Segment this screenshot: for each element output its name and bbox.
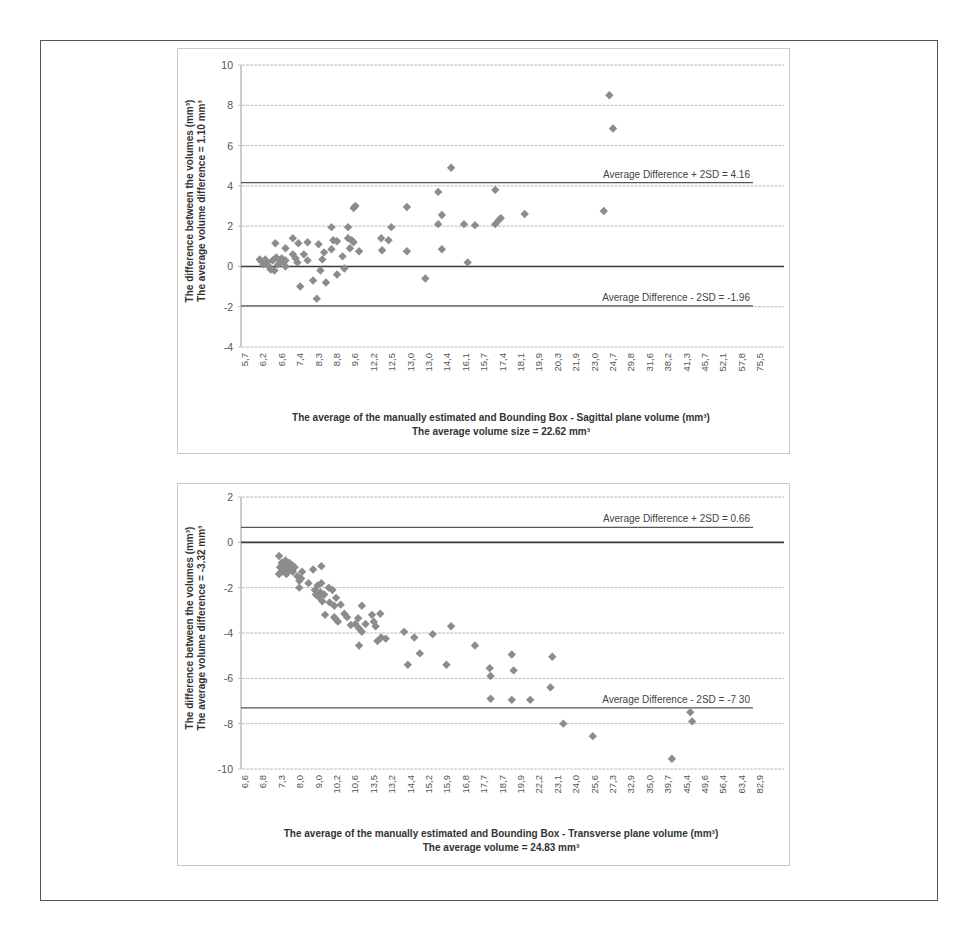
x-tick-label: 25,6 bbox=[589, 775, 600, 794]
x-tick-label: 13,2 bbox=[386, 775, 397, 794]
data-point-diamond bbox=[410, 633, 418, 641]
x-tick-label: 45,7 bbox=[699, 353, 710, 372]
y-tick-label: 10 bbox=[221, 59, 233, 71]
x-tick-label: 12,2 bbox=[368, 353, 379, 372]
data-point-diamond bbox=[526, 696, 534, 704]
y-tick-label: 8 bbox=[227, 99, 233, 111]
x-tick-label: 20,3 bbox=[552, 353, 563, 372]
data-point-diamond bbox=[491, 186, 499, 194]
data-point-diamond bbox=[376, 610, 384, 618]
data-point-diamond bbox=[317, 562, 325, 570]
upper-limit-label: Average Difference + 2SD = 4.16 bbox=[603, 169, 750, 180]
data-point-diamond bbox=[546, 683, 554, 691]
x-tick-label: 24,7 bbox=[607, 353, 618, 372]
data-point-diamond bbox=[289, 234, 297, 242]
x-tick-label: 41,3 bbox=[681, 353, 692, 372]
data-point-diamond bbox=[403, 203, 411, 211]
x-tick-label: 12,5 bbox=[386, 353, 397, 372]
x-tick-label: 24,0 bbox=[570, 775, 581, 794]
chart2-plot: The difference between the volumes (mm³)… bbox=[178, 484, 789, 865]
data-point-diamond bbox=[668, 755, 676, 763]
data-point-diamond bbox=[589, 732, 597, 740]
chart2-gridlines: 20-2-4-6-8-10 bbox=[218, 491, 784, 775]
data-point-diamond bbox=[403, 247, 411, 255]
y-tick-label: -2 bbox=[224, 582, 233, 594]
data-point-diamond bbox=[387, 223, 395, 231]
data-point-diamond bbox=[318, 255, 326, 263]
x-tick-label: 17,7 bbox=[478, 775, 489, 794]
data-point-diamond bbox=[333, 270, 341, 278]
x-tick-label: 32,9 bbox=[625, 775, 636, 794]
x-tick-label: 21,9 bbox=[570, 353, 581, 372]
data-point-diamond bbox=[314, 240, 322, 248]
data-point-diamond bbox=[486, 672, 494, 680]
chart1-reference-lines: Average Difference + 2SD = 4.16Average D… bbox=[241, 169, 784, 306]
data-point-diamond bbox=[416, 649, 424, 657]
x-tick-label: 52,1 bbox=[717, 353, 728, 372]
data-point-diamond bbox=[355, 247, 363, 255]
y-tick-label: 6 bbox=[227, 140, 233, 152]
data-point-diamond bbox=[508, 696, 516, 704]
x-tick-label: 39,7 bbox=[662, 775, 673, 794]
data-point-diamond bbox=[600, 207, 608, 215]
data-point-diamond bbox=[384, 236, 392, 244]
data-point-diamond bbox=[361, 620, 369, 628]
data-point-diamond bbox=[442, 661, 450, 669]
data-point-diamond bbox=[320, 248, 328, 256]
x-tick-label: 7,3 bbox=[276, 775, 287, 788]
chart2-ytitle: The difference between the volumes (mm³)… bbox=[184, 525, 207, 730]
chart1-xlabel-line1: The average of the manually estimated an… bbox=[292, 412, 710, 423]
data-point-diamond bbox=[460, 220, 468, 228]
data-point-diamond bbox=[316, 266, 324, 274]
data-point-diamond bbox=[294, 239, 302, 247]
x-tick-label: 19,9 bbox=[533, 353, 544, 372]
data-point-diamond bbox=[471, 221, 479, 229]
data-point-diamond bbox=[447, 164, 455, 172]
x-tick-label: 9,0 bbox=[313, 775, 324, 788]
data-point-diamond bbox=[313, 294, 321, 302]
x-tick-label: 6,2 bbox=[257, 353, 268, 366]
data-point-diamond bbox=[548, 653, 556, 661]
x-tick-label: 8,0 bbox=[294, 775, 305, 788]
x-tick-label: 29,8 bbox=[625, 353, 636, 372]
x-tick-label: 82,9 bbox=[754, 775, 765, 794]
y-tick-label: 2 bbox=[227, 220, 233, 232]
data-point-diamond bbox=[486, 695, 494, 703]
data-point-diamond bbox=[327, 245, 335, 253]
x-tick-label: 13,0 bbox=[405, 353, 416, 372]
y-tick-label: 2 bbox=[227, 491, 233, 503]
chart2-ylabel-line1: The difference between the volumes (mm³) bbox=[184, 527, 195, 730]
data-point-diamond bbox=[404, 661, 412, 669]
data-point-diamond bbox=[434, 220, 442, 228]
chart2-xlabel-line1: The average of the manually estimated an… bbox=[284, 828, 719, 839]
data-point-diamond bbox=[327, 223, 335, 231]
x-tick-label: 10,6 bbox=[349, 775, 360, 794]
x-tick-label: 19,9 bbox=[515, 775, 526, 794]
x-tick-label: 13,0 bbox=[423, 353, 434, 372]
y-tick-label: -2 bbox=[224, 301, 233, 313]
data-point-diamond bbox=[322, 278, 330, 286]
x-tick-label: 6,6 bbox=[239, 775, 250, 788]
x-tick-label: 27,3 bbox=[607, 775, 618, 794]
y-tick-label: 0 bbox=[227, 260, 233, 272]
chart1-xlabel-line2: The average volume size = 22.62 mm³ bbox=[412, 426, 591, 437]
data-point-diamond bbox=[281, 244, 289, 252]
lower-limit-label: Average Difference - 2SD = -1.96 bbox=[602, 292, 750, 303]
x-tick-label: 8,3 bbox=[313, 353, 324, 366]
x-tick-label: 38,2 bbox=[662, 353, 673, 372]
x-tick-label: 45,4 bbox=[681, 775, 692, 794]
data-point-diamond bbox=[271, 239, 279, 247]
data-point-diamond bbox=[336, 600, 344, 608]
data-point-diamond bbox=[421, 274, 429, 282]
x-tick-label: 6,8 bbox=[257, 775, 268, 788]
sagittal-bland-altman-chart: The difference between the volumes (mm³)… bbox=[177, 48, 790, 454]
x-tick-label: 23,0 bbox=[589, 353, 600, 372]
x-tick-label: 23,1 bbox=[552, 775, 563, 794]
data-point-diamond bbox=[368, 611, 376, 619]
x-tick-label: 63,4 bbox=[736, 775, 747, 794]
x-tick-label: 35,0 bbox=[644, 775, 655, 794]
data-point-diamond bbox=[509, 666, 517, 674]
data-point-diamond bbox=[520, 210, 528, 218]
data-point-diamond bbox=[321, 611, 329, 619]
data-point-diamond bbox=[355, 641, 363, 649]
